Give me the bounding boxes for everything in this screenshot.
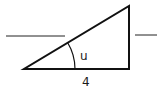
triangle-diagram: u 4 (0, 0, 168, 91)
angle-label: u (80, 49, 88, 63)
right-triangle (24, 6, 129, 69)
base-length-label: 4 (82, 75, 90, 89)
angle-arc (68, 43, 75, 69)
